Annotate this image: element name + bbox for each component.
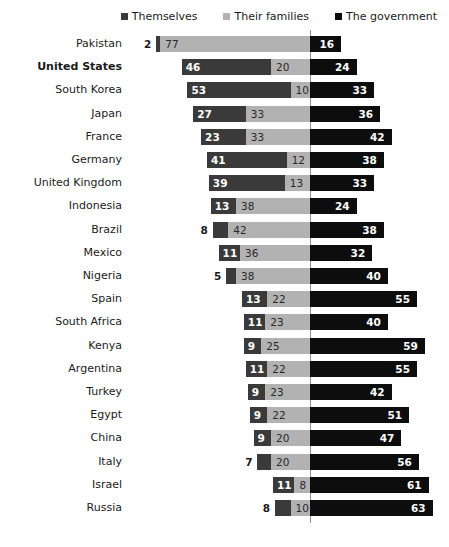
right-stack: 38 <box>310 152 384 168</box>
segment-the-government: 38 <box>310 222 384 238</box>
value-the-government: 16 <box>319 36 334 52</box>
value-their-families: 38 <box>241 198 254 214</box>
value-themselves: 11 <box>277 477 292 493</box>
value-themselves: 46 <box>186 59 201 75</box>
left-stack: 4620 <box>182 59 310 75</box>
right-stack: 55 <box>310 361 417 377</box>
segment-themselves: 53 <box>187 82 290 98</box>
value-themselves: 5 <box>214 268 221 284</box>
chart-row: France233342 <box>0 129 449 145</box>
right-stack: 61 <box>310 477 429 493</box>
segment-themselves: 7 <box>257 454 271 470</box>
segment-themselves: 9 <box>254 430 272 446</box>
row-label-nigeria: Nigeria <box>0 268 122 284</box>
left-stack: 842 <box>213 222 310 238</box>
row-label-indonesia: Indonesia <box>0 198 122 214</box>
value-their-families: 20 <box>276 59 289 75</box>
value-themselves: 8 <box>263 500 270 516</box>
row-label-argentina: Argentina <box>0 361 122 377</box>
segment-their-families: 10 <box>291 500 310 516</box>
left-stack: 5310 <box>187 82 310 98</box>
segment-themselves: 13 <box>242 291 267 307</box>
row-label-egypt: Egypt <box>0 407 122 423</box>
right-stack: 24 <box>310 198 357 214</box>
segment-themselves: 41 <box>207 152 287 168</box>
right-stack: 24 <box>310 59 357 75</box>
row-label-pakistan: Pakistan <box>0 36 122 52</box>
row-label-spain: Spain <box>0 291 122 307</box>
row-label-israel: Israel <box>0 477 122 493</box>
chart-row: Germany411238 <box>0 152 449 168</box>
value-themselves: 23 <box>205 129 220 145</box>
chart-row: Brazil84238 <box>0 222 449 238</box>
right-stack: 63 <box>310 500 433 516</box>
chart-row: China92047 <box>0 430 449 446</box>
value-themselves: 9 <box>258 430 265 446</box>
segment-themselves: 27 <box>193 106 246 122</box>
right-stack: 32 <box>310 245 372 261</box>
right-stack: 59 <box>310 338 425 354</box>
chart-row: Italy72056 <box>0 454 449 470</box>
segment-the-government: 40 <box>310 268 388 284</box>
segment-their-families: 33 <box>246 106 310 122</box>
segment-their-families: 77 <box>160 36 310 52</box>
segment-the-government: 38 <box>310 152 384 168</box>
value-the-government: 55 <box>395 361 410 377</box>
segment-themselves: 11 <box>246 361 267 377</box>
value-themselves: 11 <box>248 314 263 330</box>
segment-their-families: 23 <box>265 314 310 330</box>
left-stack: 1122 <box>246 361 310 377</box>
row-label-france: France <box>0 129 122 145</box>
value-the-government: 24 <box>335 59 350 75</box>
right-stack: 33 <box>310 175 374 191</box>
segment-the-government: 55 <box>310 291 417 307</box>
value-their-families: 22 <box>272 361 285 377</box>
left-stack: 920 <box>254 430 310 446</box>
value-their-families: 33 <box>251 106 264 122</box>
value-the-government: 51 <box>388 407 403 423</box>
value-their-families: 77 <box>165 36 178 52</box>
left-stack: 2333 <box>201 129 310 145</box>
segment-their-families: 22 <box>267 291 310 307</box>
value-their-families: 20 <box>276 430 289 446</box>
segment-themselves: 46 <box>182 59 271 75</box>
row-label-italy: Italy <box>0 454 122 470</box>
left-stack: 1136 <box>219 245 310 261</box>
segment-the-government: 61 <box>310 477 429 493</box>
segment-their-families: 38 <box>236 268 310 284</box>
row-label-russia: Russia <box>0 500 122 516</box>
segment-the-government: 36 <box>310 106 380 122</box>
value-themselves: 2 <box>144 36 151 52</box>
segment-the-government: 32 <box>310 245 372 261</box>
value-their-families: 25 <box>266 338 279 354</box>
left-stack: 2733 <box>193 106 310 122</box>
segment-their-families: 20 <box>271 454 310 470</box>
value-the-government: 33 <box>353 175 368 191</box>
right-stack: 38 <box>310 222 384 238</box>
segment-their-families: 38 <box>236 198 310 214</box>
right-stack: 56 <box>310 454 419 470</box>
right-stack: 40 <box>310 314 388 330</box>
left-stack: 3913 <box>209 175 310 191</box>
left-stack: 1338 <box>211 198 310 214</box>
row-label-kenya: Kenya <box>0 338 122 354</box>
segment-themselves: 11 <box>244 314 265 330</box>
segment-the-government: 59 <box>310 338 425 354</box>
segment-themselves: 9 <box>244 338 262 354</box>
row-label-united-states: United States <box>0 59 122 75</box>
left-stack: 1123 <box>244 314 310 330</box>
right-stack: 36 <box>310 106 380 122</box>
value-the-government: 24 <box>335 198 350 214</box>
left-stack: 923 <box>248 384 310 400</box>
segment-their-families: 13 <box>285 175 310 191</box>
left-stack: 538 <box>226 268 310 284</box>
segment-the-government: 47 <box>310 430 401 446</box>
value-the-government: 40 <box>366 314 381 330</box>
value-their-families: 13 <box>290 175 303 191</box>
right-stack: 33 <box>310 82 374 98</box>
segment-themselves: 11 <box>219 245 240 261</box>
segment-themselves: 23 <box>201 129 246 145</box>
segment-themselves: 13 <box>211 198 236 214</box>
segment-themselves: 8 <box>275 500 291 516</box>
value-their-families: 22 <box>272 291 285 307</box>
